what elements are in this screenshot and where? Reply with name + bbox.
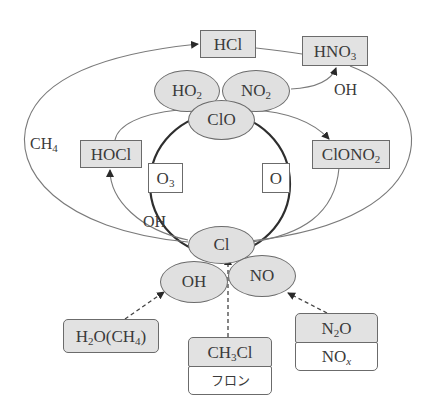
clono2-label: ClONO2 [322, 146, 380, 163]
hcl-box: HCl [200, 30, 256, 58]
n2o-no-arrow [288, 293, 327, 313]
clono2-box: ClONO2 [312, 140, 390, 169]
n2o-label: N2O [321, 320, 351, 337]
o3-label: O3 [157, 170, 175, 187]
n2o-box: N2O [295, 313, 378, 343]
ch4-edge-label: CH4 [30, 136, 58, 152]
h2o-ch4-box: H2O(CH4) [63, 319, 159, 353]
h2o-oh-arrow [125, 292, 164, 319]
nox-box: NOx [295, 342, 378, 371]
o-label: O [270, 170, 282, 187]
no-label: NO [250, 266, 275, 286]
ch3cl-label: CH3Cl [207, 344, 252, 361]
cl-label: Cl [213, 235, 229, 255]
hcl-label: HCl [214, 36, 242, 53]
oh-edge-label-left: OH [143, 214, 166, 230]
ho2-label: HO2 [172, 81, 202, 101]
ch3cl-box: CH3Cl [188, 337, 272, 367]
no2-label: NO2 [241, 81, 271, 101]
clo-clono2-arrow [252, 110, 329, 139]
hno3-box: HNO3 [302, 36, 368, 66]
o-box: O [262, 163, 290, 193]
no-ellipse: NO [228, 255, 296, 297]
hocl-box: HOCl [80, 140, 142, 168]
hocl-label: HOCl [91, 146, 132, 163]
h2o-ch4-label: H2O(CH4) [76, 328, 147, 345]
oh-edge-label-top: OH [334, 82, 357, 98]
nox-label: NOx [322, 348, 351, 365]
freon-box: フロン [188, 366, 272, 395]
hcl-hno3-line [256, 48, 302, 54]
hno3-label: HNO3 [314, 43, 356, 60]
freon-label: フロン [211, 374, 250, 387]
clo-label: ClO [207, 110, 235, 130]
o3-box: O3 [148, 163, 183, 193]
oh-ellipse: OH [160, 261, 228, 303]
oh-label: OH [182, 272, 207, 292]
no2-hno3-arrow [291, 68, 336, 89]
clo-ellipse: ClO [188, 100, 255, 140]
